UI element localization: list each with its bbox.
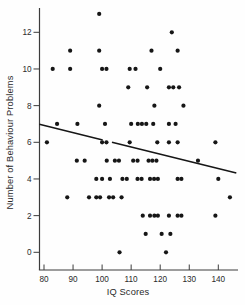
data-point xyxy=(152,104,156,108)
data-point xyxy=(131,159,135,163)
data-point xyxy=(179,177,183,181)
data-point xyxy=(94,177,98,181)
data-point xyxy=(152,177,156,181)
data-point xyxy=(170,30,174,34)
data-point xyxy=(45,140,49,144)
data-point xyxy=(151,122,155,126)
data-point xyxy=(140,177,144,181)
data-point xyxy=(104,67,108,71)
data-point xyxy=(145,85,149,89)
data-point xyxy=(119,195,123,199)
x-tick-label: 80 xyxy=(39,275,49,284)
data-point xyxy=(160,232,164,236)
data-point xyxy=(120,177,124,181)
data-point xyxy=(108,177,112,181)
data-point xyxy=(156,214,160,218)
data-point xyxy=(196,159,200,163)
data-point xyxy=(98,195,102,199)
data-point xyxy=(177,85,181,89)
data-point xyxy=(65,195,69,199)
data-point xyxy=(68,67,72,71)
data-point xyxy=(100,177,104,181)
data-point xyxy=(55,122,59,126)
y-tick-label: 12 xyxy=(22,28,32,37)
x-axis-label: IQ Scores xyxy=(107,287,150,297)
data-point xyxy=(156,177,160,181)
data-point xyxy=(103,122,107,126)
data-point xyxy=(176,177,180,181)
data-point xyxy=(149,49,153,53)
data-point xyxy=(141,214,145,218)
data-point xyxy=(94,195,98,199)
data-point xyxy=(150,159,154,163)
data-point xyxy=(113,159,117,163)
x-tick-label: 110 xyxy=(125,275,138,284)
data-point xyxy=(117,250,121,254)
data-point xyxy=(216,177,220,181)
data-point xyxy=(148,214,152,218)
data-point xyxy=(176,49,180,53)
data-point xyxy=(75,159,79,163)
data-point xyxy=(51,67,55,71)
y-tick-label: 8 xyxy=(27,102,32,111)
data-point xyxy=(176,140,180,144)
data-point xyxy=(68,49,72,53)
data-point xyxy=(213,140,217,144)
x-tick-label: 90 xyxy=(68,275,78,284)
data-point xyxy=(154,159,158,163)
data-point xyxy=(167,122,171,126)
data-point xyxy=(146,159,150,163)
x-tick-label: 130 xyxy=(182,275,196,284)
tick-labels: 8090100110120130140024681012 xyxy=(22,28,225,284)
regression-line-segment xyxy=(39,124,102,140)
data-point xyxy=(164,250,168,254)
data-point xyxy=(144,122,148,126)
data-point xyxy=(105,159,109,163)
data-point xyxy=(100,67,104,71)
regression-line-segment xyxy=(112,142,236,173)
x-tick-label: 100 xyxy=(95,275,109,284)
data-point xyxy=(176,214,180,218)
y-tick-label: 10 xyxy=(22,65,32,74)
data-point xyxy=(133,67,137,71)
data-point xyxy=(136,122,140,126)
y-tick-label: 2 xyxy=(27,212,32,221)
y-tick-label: 6 xyxy=(27,138,32,147)
data-point xyxy=(135,159,139,163)
scatter-plot: 8090100110120130140024681012 IQ Scores N… xyxy=(0,0,245,305)
data-point xyxy=(100,140,104,144)
data-point xyxy=(107,195,111,199)
data-point xyxy=(111,195,115,199)
data-point xyxy=(128,140,132,144)
x-tick-label: 120 xyxy=(153,275,167,284)
data-point xyxy=(97,49,101,53)
data-point xyxy=(167,214,171,218)
x-tick-label: 140 xyxy=(211,275,225,284)
data-point xyxy=(97,104,101,108)
axes xyxy=(39,8,238,270)
data-point xyxy=(129,122,133,126)
regression-line xyxy=(39,124,236,173)
data-point xyxy=(181,104,185,108)
data-point xyxy=(83,159,87,163)
data-point xyxy=(167,85,171,89)
data-point xyxy=(171,85,175,89)
data-point xyxy=(155,140,159,144)
axis-ticks xyxy=(34,32,219,270)
data-point xyxy=(158,67,162,71)
data-point xyxy=(140,122,144,126)
data-point xyxy=(148,177,152,181)
data-point xyxy=(104,140,108,144)
data-point xyxy=(126,85,130,89)
data-point xyxy=(167,140,171,144)
y-tick-label: 4 xyxy=(27,175,32,184)
data-point xyxy=(179,214,183,218)
y-axis-label: Number of Behaviour Problems xyxy=(5,75,15,209)
data-point xyxy=(128,67,132,71)
data-point xyxy=(117,159,121,163)
data-point xyxy=(144,232,148,236)
data-point xyxy=(135,177,139,181)
data-point xyxy=(168,232,172,236)
data-point xyxy=(125,177,129,181)
data-point xyxy=(97,12,101,16)
